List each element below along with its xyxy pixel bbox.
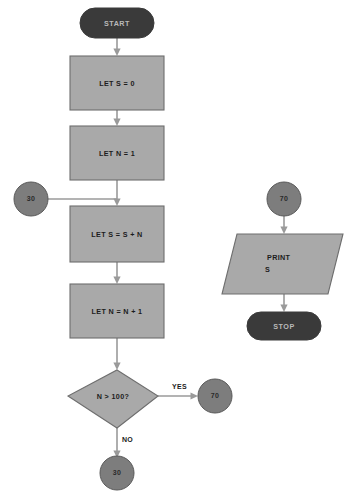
connector-out-70-label: 70 (280, 195, 288, 202)
connector-no-30-label: 30 (113, 469, 121, 476)
node-process-let-s-0[interactable]: LET S = 0 (70, 56, 164, 110)
output-print-label-line2: S (265, 265, 270, 274)
branch-label-yes: YES (172, 383, 187, 390)
node-connector-yes-70[interactable]: 70 (198, 379, 232, 413)
output-print-label-line1: PRINT (267, 253, 291, 262)
output-print-shape (222, 234, 343, 294)
connector-in-30-label: 30 (27, 195, 35, 202)
arrowhead-inc-to-decision (113, 363, 120, 371)
node-connector-out-70[interactable]: 70 (267, 182, 301, 216)
process-let-s-0-label: LET S = 0 (99, 79, 135, 88)
flowchart-canvas: START LET S = 0 LET N = 1 30 LET S = S +… (0, 0, 351, 496)
arrowhead-let-s-to-let-n (113, 119, 120, 127)
node-process-let-s-sum[interactable]: LET S = S + N (70, 206, 164, 262)
node-connector-no-30[interactable]: 30 (100, 456, 134, 490)
process-let-n-inc-label: LET N = N + 1 (92, 307, 143, 316)
arrowhead-connector70-to-print (280, 227, 287, 235)
node-start-terminal[interactable]: START (80, 8, 154, 38)
start-terminal-label: START (104, 19, 130, 28)
arrowhead-print-to-stop (280, 305, 287, 313)
arrowhead-start-to-let-s (113, 49, 120, 57)
node-connector-in-30[interactable]: 30 (14, 182, 48, 216)
arrowhead-sum-to-inc (113, 277, 120, 285)
node-decision-n-gt-100[interactable]: N > 100? (68, 370, 158, 428)
node-stop-terminal[interactable]: STOP (247, 312, 321, 340)
stop-terminal-label: STOP (273, 322, 294, 331)
arrowhead-decision-yes (191, 392, 199, 399)
decision-n-gt-100-label: N > 100? (97, 392, 130, 401)
flowchart-svg: START LET S = 0 LET N = 1 30 LET S = S +… (0, 0, 351, 496)
node-process-let-n-1[interactable]: LET N = 1 (70, 126, 164, 180)
connector-yes-70-label: 70 (211, 392, 219, 399)
branch-label-no: NO (122, 436, 133, 443)
node-output-print[interactable]: PRINT S (222, 234, 343, 294)
process-let-n-1-label: LET N = 1 (99, 149, 135, 158)
node-process-let-n-inc[interactable]: LET N = N + 1 (70, 284, 164, 338)
process-let-s-sum-label: LET S = S + N (91, 230, 142, 239)
